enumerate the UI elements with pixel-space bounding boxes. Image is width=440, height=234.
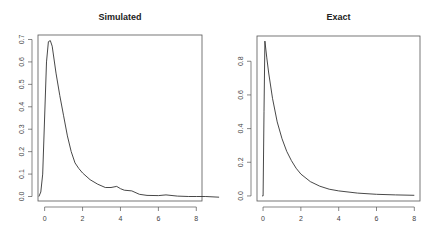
exact-plot-frame xyxy=(257,36,420,201)
exact-density-line xyxy=(262,41,414,196)
x-tick-label: 4 xyxy=(337,215,341,222)
y-tick-label: 0.0 xyxy=(237,191,244,201)
y-tick-label: 0.3 xyxy=(18,124,25,134)
simulated-axes: 024680.00.10.20.30.40.50.60.7 xyxy=(18,35,198,222)
x-tick-label: 6 xyxy=(156,215,160,222)
simulated-panel: Simulated 024680.00.10.20.30.40.50.60.7 xyxy=(18,12,219,222)
simulated-density-line xyxy=(39,41,219,198)
figure: Simulated 024680.00.10.20.30.40.50.60.7 … xyxy=(0,0,440,234)
y-tick-label: 0.6 xyxy=(237,90,244,100)
y-tick-label: 0.7 xyxy=(18,35,25,45)
x-tick-label: 6 xyxy=(375,215,379,222)
x-tick-label: 0 xyxy=(261,215,265,222)
exact-panel: Exact 024680.00.20.40.60.8 xyxy=(237,12,420,222)
exact-title: Exact xyxy=(326,12,350,22)
simulated-plot-frame xyxy=(38,35,202,201)
y-tick-label: 0.2 xyxy=(18,147,25,157)
y-tick-label: 0.6 xyxy=(18,57,25,67)
x-tick-label: 8 xyxy=(412,215,416,222)
x-tick-label: 2 xyxy=(81,215,85,222)
y-tick-label: 0.5 xyxy=(18,79,25,89)
x-tick-label: 0 xyxy=(43,215,47,222)
x-tick-label: 4 xyxy=(119,215,123,222)
x-tick-label: 8 xyxy=(194,215,198,222)
y-tick-label: 0.1 xyxy=(18,169,25,179)
simulated-title: Simulated xyxy=(98,12,141,22)
x-tick-label: 2 xyxy=(299,215,303,222)
y-tick-label: 0.2 xyxy=(237,157,244,167)
y-tick-label: 0.4 xyxy=(237,124,244,134)
y-tick-label: 0.4 xyxy=(18,102,25,112)
y-tick-label: 0.0 xyxy=(18,192,25,202)
y-tick-label: 0.8 xyxy=(237,56,244,66)
